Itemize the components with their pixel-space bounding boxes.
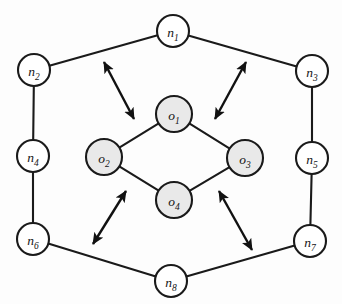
diamond-edge-o1-o3 xyxy=(188,123,230,149)
inner-node-o1[interactable]: o1 xyxy=(156,96,192,132)
outer-ring-edges xyxy=(33,35,312,277)
diamond-edge-o2-o4 xyxy=(118,166,159,191)
outer-node-n3[interactable]: n3 xyxy=(296,55,328,87)
arrow-top-left xyxy=(104,62,134,119)
ring-edge-n2-n1 xyxy=(48,35,158,66)
outer-node-n2[interactable]: n2 xyxy=(18,54,50,86)
ring-edge-n8-n7 xyxy=(185,245,295,277)
ring-edge-n2-n4 xyxy=(33,85,34,141)
ring-edge-n5-n7 xyxy=(310,173,311,226)
diamond-edge-o3-o4 xyxy=(189,167,231,192)
outer-nodes: n1n2n3n4n5n6n7n8 xyxy=(17,15,328,297)
arrow-top-right xyxy=(215,62,246,119)
outer-node-n6[interactable]: n6 xyxy=(17,223,49,255)
ring-edge-n6-n8 xyxy=(47,243,156,276)
arrow-bottom-right xyxy=(219,191,252,250)
inner-node-o3[interactable]: o3 xyxy=(227,140,263,176)
node-relationship-diagram: n1n2n3n4n5n6n7n8 o1o2o3o4 xyxy=(0,0,342,304)
outer-node-n5[interactable]: n5 xyxy=(296,142,328,174)
inner-nodes: o1o2o3o4 xyxy=(86,96,263,218)
diagram-canvas: n1n2n3n4n5n6n7n8 o1o2o3o4 xyxy=(0,0,342,304)
inner-node-o4[interactable]: o4 xyxy=(156,182,192,218)
outer-node-n7[interactable]: n7 xyxy=(294,225,326,257)
arrow-bottom-left xyxy=(93,191,126,244)
outer-node-n4[interactable]: n4 xyxy=(17,140,49,172)
outer-node-n1[interactable]: n1 xyxy=(157,15,189,47)
diamond-edge-o1-o2 xyxy=(118,123,159,148)
inner-node-o2[interactable]: o2 xyxy=(86,139,122,175)
ring-edge-n1-n3 xyxy=(187,35,297,67)
outer-node-n8[interactable]: n8 xyxy=(155,265,187,297)
